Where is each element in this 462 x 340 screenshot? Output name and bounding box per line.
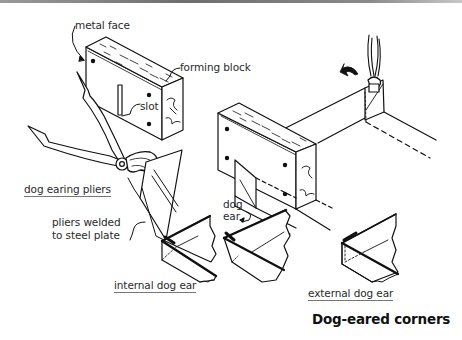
vertical-pliers [368,35,381,92]
rotation-arrow-icon [340,64,358,76]
external-dog-ear-gutter [342,214,398,282]
label-dog-ear-line1: dog [223,198,242,210]
label-external-dog-ear: external dog ear [308,287,393,301]
label-forming-block: forming block [180,61,251,73]
figure-title: Dog-eared corners [312,311,450,327]
label-dog-ear-line2: ear [223,210,240,222]
label-pliers-welded-line2: to steel plate [52,229,120,241]
label-pliers-welded-line1: pliers welded [52,216,121,228]
block-with-bent-sheet [218,80,436,234]
label-dog-earing-pliers: dog earing pliers [24,183,111,197]
label-slot: slot [140,100,159,112]
internal-dog-ear-gutter [162,216,216,282]
label-metal-face: metal face [75,19,130,31]
label-internal-dog-ear: internal dog ear [114,279,196,293]
